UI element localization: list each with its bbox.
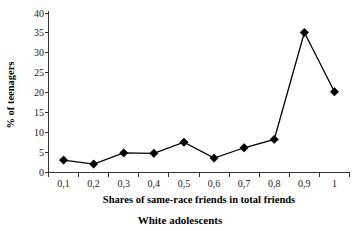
data-point-marker <box>270 135 278 143</box>
x-tick-label: 0,4 <box>148 178 161 189</box>
data-point-marker <box>300 28 308 36</box>
data-point-marker <box>120 149 128 157</box>
x-axis-tick-marks <box>49 173 350 178</box>
data-point-marker <box>180 138 188 146</box>
data-point-marker <box>210 154 218 162</box>
y-tick-label: 35 <box>34 27 44 38</box>
y-tick-label: 15 <box>34 107 44 118</box>
y-tick-label: 20 <box>34 87 44 98</box>
y-tick-label: 25 <box>34 67 44 78</box>
data-point-marker <box>240 144 248 152</box>
data-point-marker <box>150 149 158 157</box>
x-axis-title: Shares of same-race friends in total fri… <box>103 194 295 205</box>
x-tick-label: 0,3 <box>117 178 130 189</box>
chart-figure: 40 35 30 25 20 15 10 5 0 <box>0 0 360 231</box>
x-tick-label: 0,5 <box>178 178 191 189</box>
x-axis-tick-labels: 0,1 0,2 0,3 0,4 0,5 0,6 0,7 0,8 0,9 1 <box>57 178 337 189</box>
y-tick-label: 40 <box>34 8 44 19</box>
x-tick-label: 0,1 <box>57 178 70 189</box>
x-tick-label: 0,7 <box>238 178 251 189</box>
x-tick-label: 0,2 <box>87 178 100 189</box>
x-tick-label: 1 <box>332 178 337 189</box>
data-point-marker <box>330 88 338 96</box>
y-tick-label: 10 <box>34 127 44 138</box>
y-tick-label: 0 <box>39 167 44 178</box>
y-tick-label: 30 <box>34 47 44 58</box>
figure-caption: White adolescents <box>138 214 223 226</box>
data-point-marker <box>59 156 67 164</box>
data-point-marker <box>89 160 97 168</box>
x-tick-label: 0,9 <box>298 178 311 189</box>
series-markers <box>59 28 338 168</box>
line-chart: 40 35 30 25 20 15 10 5 0 <box>0 0 360 231</box>
y-axis-title: % of teenagers <box>5 61 16 128</box>
y-axis-tick-labels: 40 35 30 25 20 15 10 5 0 <box>34 8 44 178</box>
y-tick-label: 5 <box>39 147 44 158</box>
x-tick-label: 0,6 <box>208 178 221 189</box>
x-tick-label: 0,8 <box>268 178 281 189</box>
y-axis-tick-marks <box>45 13 49 172</box>
series-line <box>64 32 335 164</box>
